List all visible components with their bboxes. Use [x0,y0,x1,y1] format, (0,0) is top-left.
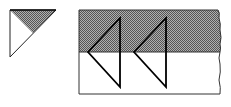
geometric-diagram [0,0,231,107]
small-triangle-shaded-wedge [10,10,56,33]
strip-shaded-band [79,10,221,52]
torn-strip [79,10,221,94]
small-triangle [10,10,56,57]
